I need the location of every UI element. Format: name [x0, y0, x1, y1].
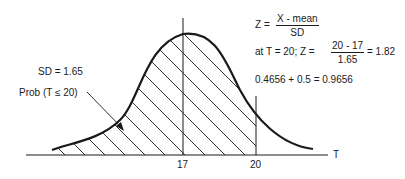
sd-label: SD = 1.65 — [38, 67, 83, 77]
calc-numerator: 20 - 17 — [331, 41, 364, 53]
formula-denominator: SD — [290, 26, 304, 38]
formula-lhs: Z = — [255, 20, 270, 30]
prob-label: Prob (T ≤ 20) — [19, 88, 78, 98]
axis-label-t: T — [333, 150, 339, 160]
sum-line: 0.4656 + 0.5 = 0.9656 — [255, 75, 353, 85]
formula-numerator: X - mean — [276, 14, 319, 26]
leader-line — [87, 92, 122, 128]
tick-label-20: 20 — [250, 160, 261, 170]
calc-denominator: 1.65 — [338, 53, 357, 65]
calc-result: = 1.82 — [367, 47, 395, 57]
calc-prefix: at T = 20; Z = — [255, 47, 315, 57]
formula-fraction: X - mean SD — [276, 14, 319, 38]
calc-fraction: 20 - 17 1.65 — [331, 41, 364, 65]
tick-label-17: 17 — [177, 160, 188, 170]
